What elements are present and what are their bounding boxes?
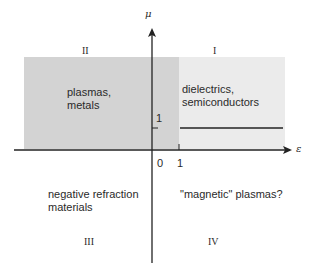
quadrant-numeral-I: I — [213, 45, 216, 56]
axes-graphic — [0, 0, 314, 271]
quadrant-label-IV: "magnetic" plasmas? — [180, 188, 283, 201]
epsilon-tick-label-0: 0 — [157, 157, 163, 170]
mu-tick-label-1: 1 — [156, 112, 162, 125]
quadrant-label-II: plasmas, metals — [67, 86, 111, 112]
quadrant-label-I: dielectrics, semiconductors — [182, 83, 259, 109]
quadrant-numeral-IV: IV — [208, 236, 219, 247]
mu-axis-label: μ — [145, 8, 152, 19]
epsilon-axis-label: ε — [296, 143, 301, 154]
quadrant-numeral-II: II — [82, 45, 89, 56]
epsilon-tick-label-1: 1 — [177, 157, 183, 170]
quadrant-label-III: negative refraction materials — [48, 188, 139, 214]
quadrant-numeral-III: III — [84, 236, 94, 247]
